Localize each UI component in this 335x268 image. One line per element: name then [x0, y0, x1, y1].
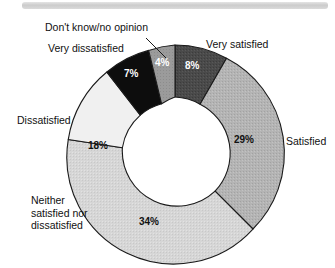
value-label-very-dissatisfied: 7%	[124, 68, 138, 79]
category-label-dont-know: Don't know/no opinion	[45, 21, 148, 34]
value-label-very-satisfied: 8%	[185, 60, 199, 71]
category-label-neither-line2: satisfied nor	[31, 207, 103, 220]
category-label-very-satisfied: Very satisfied	[206, 38, 268, 51]
category-label-neither-line1: Neither	[31, 194, 103, 207]
value-label-satisfied: 29%	[234, 134, 254, 145]
value-label-dont-know: 4%	[155, 57, 169, 68]
category-label-neither-line3: dissatisfied	[31, 219, 103, 232]
value-label-dissatisfied: 18%	[88, 140, 108, 151]
category-label-dissatisfied: Dissatisfied	[17, 114, 71, 127]
donut-chart: 8% 29% 34% 18% 7% 4% Don't know/no opini…	[0, 0, 335, 268]
category-label-satisfied: Satisfied	[286, 135, 326, 148]
value-label-neither: 34%	[139, 216, 159, 227]
category-label-neither: Neither satisfied nor dissatisfied	[31, 194, 103, 232]
category-label-very-dissatisfied: Very dissatisfied	[48, 42, 124, 55]
